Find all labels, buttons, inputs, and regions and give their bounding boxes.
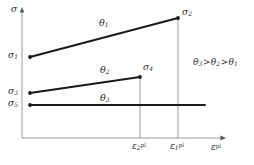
label-sigma4: σ4 xyxy=(143,63,153,72)
marker-sigma4 xyxy=(138,75,142,79)
label-sigma2: σ2 xyxy=(182,8,192,17)
x-axis-arrow-icon xyxy=(220,136,226,141)
tick-label-eps2: ε2pl xyxy=(132,142,146,151)
label-sigma5: σ5 xyxy=(8,99,18,108)
tick-label-eps1: ε1pl xyxy=(170,142,184,151)
hardening-curve-figure: σ εpl σ1 σ2 σ3 σ4 σ5 θ1 θ2 θ3 ε2pl ε1pl … xyxy=(0,0,254,165)
y-axis-arrow-icon xyxy=(20,7,25,13)
marker-sigma1 xyxy=(28,55,32,59)
label-sigma3: σ3 xyxy=(8,87,18,96)
inequality-annotation: θ3>θ2>θ1 xyxy=(193,58,238,67)
marker-sigma3 xyxy=(28,91,32,95)
marker-sigma5 xyxy=(28,103,32,107)
curve-theta2 xyxy=(30,77,140,93)
figure-canvas xyxy=(0,0,254,165)
x-axis-label: εpl xyxy=(211,143,221,152)
y-axis-label: σ xyxy=(11,5,17,14)
label-theta2: θ2 xyxy=(100,65,110,75)
label-theta3: θ3 xyxy=(100,93,110,103)
label-sigma1: σ1 xyxy=(8,51,18,60)
label-theta1: θ1 xyxy=(99,18,109,28)
marker-sigma2 xyxy=(176,16,180,20)
